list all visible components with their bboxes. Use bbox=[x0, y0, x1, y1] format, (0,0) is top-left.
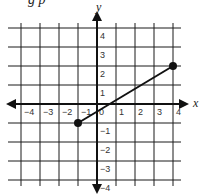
x-axis-left-arrow-icon bbox=[6, 99, 16, 109]
endpoint-dot bbox=[169, 62, 177, 70]
x-tick-label: 1 bbox=[119, 107, 124, 117]
y-tick-label: 2 bbox=[100, 69, 105, 79]
y-axis-label: y bbox=[95, 0, 102, 14]
x-tick-label: −3 bbox=[43, 107, 53, 117]
x-tick-label: −4 bbox=[24, 107, 34, 117]
x-tick-label: 3 bbox=[157, 107, 162, 117]
y-tick-label: −1 bbox=[100, 126, 110, 136]
tick-labels: −4−3−2−101234−4−3−2−11234 bbox=[24, 31, 181, 193]
axes bbox=[6, 11, 189, 194]
data-series bbox=[74, 62, 177, 127]
y-tick-label: −2 bbox=[100, 145, 110, 155]
x-axis-label: x bbox=[192, 96, 199, 110]
x-tick-label: −2 bbox=[62, 107, 72, 117]
partial-heading: g p bbox=[28, 0, 46, 7]
x-tick-label: 2 bbox=[138, 107, 143, 117]
coordinate-graph: g p −4−3−2−101234−4−3−2−11234 x y bbox=[0, 0, 201, 196]
y-tick-label: −3 bbox=[100, 164, 110, 174]
y-tick-label: 1 bbox=[100, 88, 105, 98]
y-tick-label: 3 bbox=[100, 50, 105, 60]
y-tick-label: 4 bbox=[100, 31, 105, 41]
endpoint-dot bbox=[74, 119, 82, 127]
y-tick-label: −4 bbox=[100, 183, 110, 193]
x-tick-label: 4 bbox=[176, 107, 181, 117]
